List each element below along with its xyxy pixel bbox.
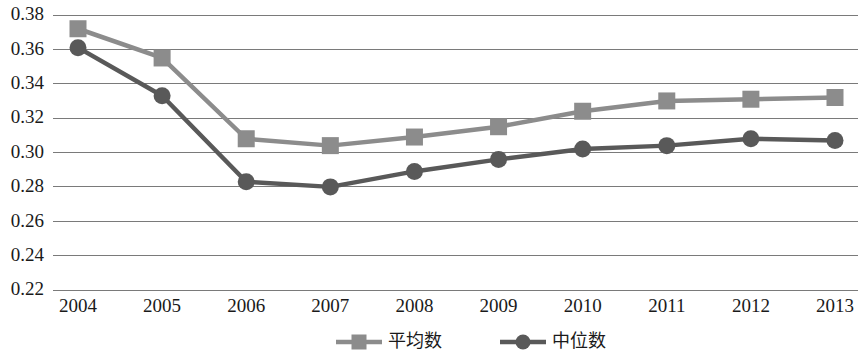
series-circle xyxy=(70,39,844,195)
y-tick-label: 0.30 xyxy=(11,141,44,162)
y-tick-label: 0.22 xyxy=(11,278,44,299)
series-line xyxy=(78,48,835,187)
data-point-marker xyxy=(658,92,675,109)
legend-label: 中位数 xyxy=(552,331,606,351)
x-tick-label: 2012 xyxy=(732,295,770,316)
data-point-marker xyxy=(658,137,675,154)
y-tick-label: 0.36 xyxy=(11,38,44,59)
data-point-marker xyxy=(490,118,507,135)
y-tick-label: 0.32 xyxy=(11,106,44,127)
y-axis-tick-labels: 0.380.360.340.320.300.280.260.240.22 xyxy=(11,3,45,299)
data-point-marker xyxy=(827,132,844,149)
x-tick-label: 2006 xyxy=(227,295,265,316)
data-point-marker xyxy=(70,39,87,56)
line-chart: 0.380.360.340.320.300.280.260.240.22 200… xyxy=(0,0,860,360)
data-point-marker xyxy=(406,129,423,146)
series-square xyxy=(70,20,844,154)
x-tick-label: 2004 xyxy=(59,295,98,316)
x-tick-label: 2010 xyxy=(564,295,602,316)
data-point-marker xyxy=(827,89,844,106)
x-tick-label: 2005 xyxy=(143,295,181,316)
data-series-layer xyxy=(70,20,844,195)
x-tick-label: 2008 xyxy=(395,295,433,316)
chart-canvas: 0.380.360.340.320.300.280.260.240.22 200… xyxy=(0,0,860,360)
y-tick-label: 0.26 xyxy=(11,210,44,231)
data-point-marker xyxy=(154,49,171,66)
y-tick-label: 0.24 xyxy=(11,244,45,265)
data-point-marker xyxy=(322,178,339,195)
data-point-marker xyxy=(742,130,759,147)
gridline-group xyxy=(53,15,858,290)
y-tick-label: 0.28 xyxy=(11,175,44,196)
x-tick-label: 2009 xyxy=(480,295,518,316)
data-point-marker xyxy=(490,151,507,168)
legend-marker-square xyxy=(352,335,367,350)
data-point-marker xyxy=(238,173,255,190)
legend-label: 平均数 xyxy=(388,331,442,351)
data-point-marker xyxy=(406,163,423,180)
legend-marker-circle xyxy=(516,335,531,350)
x-tick-label: 2011 xyxy=(648,295,685,316)
x-axis-tick-labels: 2004200520062007200820092010201120122013 xyxy=(59,295,854,316)
x-tick-label: 2007 xyxy=(311,295,349,316)
chart-legend: 平均数中位数 xyxy=(336,331,606,351)
legend-item-1[interactable]: 平均数 xyxy=(336,331,442,351)
y-tick-label: 0.34 xyxy=(11,72,45,93)
data-point-marker xyxy=(322,137,339,154)
legend-item-2[interactable]: 中位数 xyxy=(500,331,606,351)
y-tick-label: 0.38 xyxy=(11,3,44,24)
x-tick-label: 2013 xyxy=(816,295,854,316)
data-point-marker xyxy=(574,141,591,158)
data-point-marker xyxy=(70,20,87,37)
data-point-marker xyxy=(238,130,255,147)
data-point-marker xyxy=(742,91,759,108)
data-point-marker xyxy=(154,87,171,104)
data-point-marker xyxy=(574,103,591,120)
